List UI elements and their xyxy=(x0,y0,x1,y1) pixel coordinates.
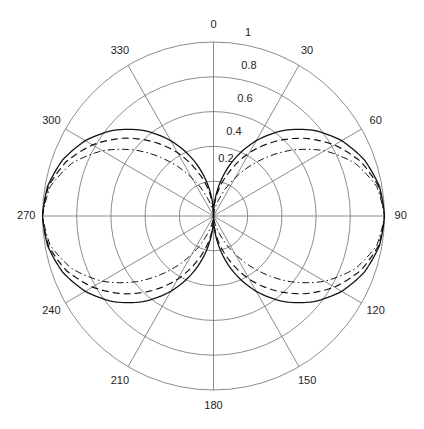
angle-tick-label: 300 xyxy=(42,114,60,126)
radial-tick-labels: 0.20.40.60.81 xyxy=(218,26,256,164)
radial-tick-label: 0.2 xyxy=(218,152,233,164)
angle-tick-label: 210 xyxy=(111,374,129,386)
radial-tick-label: 0.4 xyxy=(226,125,241,137)
angle-tick-label: 90 xyxy=(395,209,407,221)
angle-tick-label: 330 xyxy=(111,44,129,56)
angle-tick-label: 60 xyxy=(370,114,382,126)
radial-tick-label: 0.6 xyxy=(237,92,252,104)
angle-tick-label: 180 xyxy=(204,399,222,411)
angle-tick-label: 120 xyxy=(366,304,384,316)
radial-tick-label: 1 xyxy=(245,26,251,38)
angle-tick-label: 150 xyxy=(298,374,316,386)
angle-tick-label: 270 xyxy=(17,209,35,221)
angle-tick-label: 240 xyxy=(42,304,60,316)
radial-tick-label: 0.8 xyxy=(241,59,256,71)
angle-tick-label: 30 xyxy=(301,44,313,56)
angle-tick-label: 0 xyxy=(210,18,216,30)
polar-chart: 0306090120150180210240270300330 0.20.40.… xyxy=(0,0,424,429)
